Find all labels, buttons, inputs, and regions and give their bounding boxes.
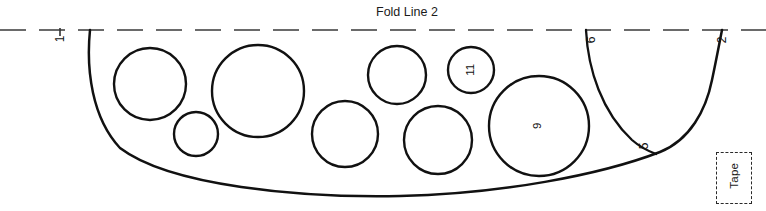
pattern-circle	[404, 106, 472, 174]
edge-label-1: 1	[54, 36, 66, 43]
fold-line-label: Fold Line 2	[376, 6, 438, 19]
edge-label-6: 6	[585, 37, 597, 44]
edge-label-2: 2	[716, 37, 728, 44]
pattern-circle	[212, 45, 304, 137]
circle-label-11: 11	[465, 64, 477, 76]
pattern-diagram: Fold Line 2 1 6 2 5 11 9 Tape	[0, 0, 766, 211]
pattern-circle	[312, 101, 378, 167]
circle-label-9: 9	[532, 123, 544, 129]
pattern-circle	[114, 48, 186, 120]
pattern-circle	[368, 46, 426, 104]
pattern-circle	[174, 112, 218, 156]
circle-layer	[0, 0, 766, 211]
edge-label-5: 5	[638, 143, 650, 150]
tape-label: Tape	[729, 163, 741, 189]
